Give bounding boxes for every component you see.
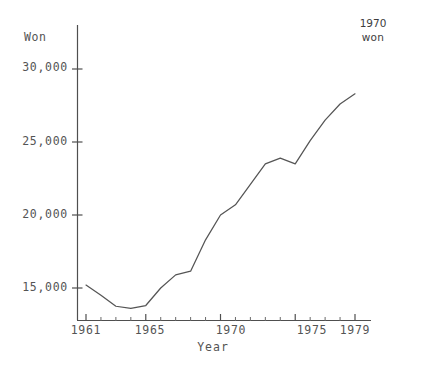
- unit-annotation-year: 1970: [338, 16, 408, 30]
- x-tick-label-1961: 1961: [64, 325, 108, 337]
- x-tick-label-1970: 1970: [209, 325, 253, 337]
- x-tick-label-1965: 1965: [128, 325, 172, 337]
- x-tick-label-1979: 1979: [333, 325, 377, 337]
- unit-annotation: 1970 won: [338, 16, 408, 44]
- y-tick-label-15000: 15,000: [6, 282, 68, 294]
- x-tick-label-1975: 1975: [290, 325, 334, 337]
- y-tick-label-30000: 30,000: [6, 62, 68, 74]
- y-tick-label-20000: 20,000: [6, 209, 68, 221]
- chart-plot-area: [0, 0, 426, 370]
- x-axis-title: Year: [0, 342, 426, 354]
- y-axis-title: Won: [24, 32, 47, 44]
- data-series-line: [86, 94, 355, 309]
- unit-annotation-currency: won: [338, 30, 408, 44]
- y-tick-label-25000: 25,000: [6, 136, 68, 148]
- line-chart: Won 30,000 25,000 20,000 15,000 1961 196…: [0, 0, 426, 370]
